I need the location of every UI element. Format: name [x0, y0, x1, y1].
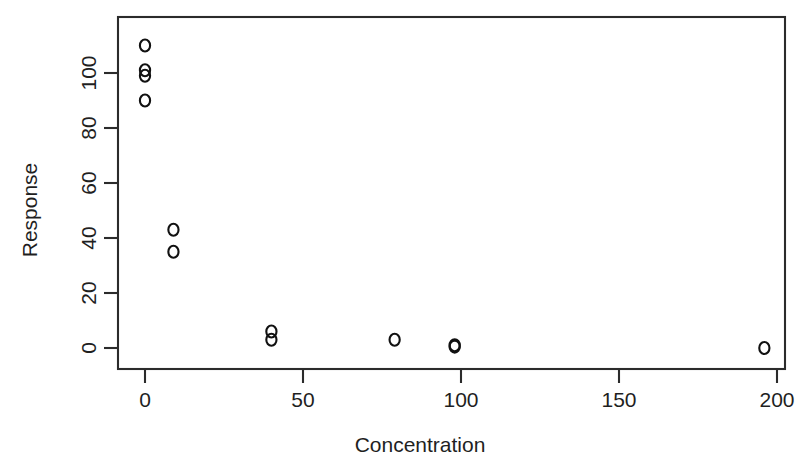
- y-tick-label-20: 20: [77, 281, 100, 304]
- chart-figure: 0 20 40 60 80 100 Response 0 50 100 150 …: [0, 0, 809, 473]
- x-tick-label-200: 200: [759, 388, 794, 411]
- y-tick-label-60: 60: [77, 171, 100, 194]
- data-point: [759, 342, 769, 354]
- x-axis-ticks: [145, 369, 777, 383]
- y-tick-label-100: 100: [77, 55, 100, 90]
- data-point: [168, 224, 178, 236]
- data-point: [168, 246, 178, 258]
- y-axis-tick-labels: 0 20 40 60 80 100: [77, 55, 100, 353]
- y-axis-ticks: [104, 73, 118, 348]
- x-tick-label-150: 150: [601, 388, 636, 411]
- y-tick-label-40: 40: [77, 226, 100, 249]
- data-point: [390, 334, 400, 346]
- data-point: [266, 334, 276, 346]
- data-point: [140, 95, 150, 107]
- y-tick-label-80: 80: [77, 116, 100, 139]
- y-tick-label-0: 0: [77, 342, 100, 354]
- y-axis-title: Response: [18, 163, 41, 258]
- x-tick-label-0: 0: [139, 388, 151, 411]
- data-point: [140, 40, 150, 52]
- x-axis-title: Concentration: [355, 433, 486, 456]
- x-tick-label-50: 50: [291, 388, 314, 411]
- scatter-plot-svg: 0 20 40 60 80 100 Response 0 50 100 150 …: [0, 0, 809, 473]
- data-points-layer: [140, 40, 770, 355]
- plot-frame: [118, 17, 785, 369]
- x-tick-label-100: 100: [443, 388, 478, 411]
- x-axis-tick-labels: 0 50 100 150 200: [139, 388, 794, 411]
